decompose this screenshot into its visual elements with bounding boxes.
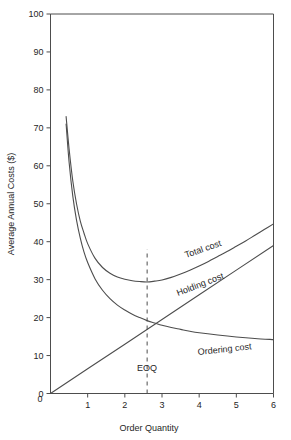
x-tick-label: 3 xyxy=(159,400,164,410)
y-tick-group: 0102030405060708090100 xyxy=(28,9,50,399)
x-tick-label: 1 xyxy=(85,400,90,410)
y-axis-title: Average Annual Costs ($) xyxy=(6,153,16,255)
x-tick-label: 4 xyxy=(197,400,202,410)
series-label-ordering-cost: Ordering cost xyxy=(197,341,252,357)
eoq-annotation-label: EOQ xyxy=(137,363,157,373)
x-tick-group: 0123456 xyxy=(37,394,276,410)
series-line-holding-cost xyxy=(51,246,274,394)
x-axis-title: Order Quantity xyxy=(119,423,179,433)
y-tick-label: 40 xyxy=(33,237,43,247)
y-tick-label: 20 xyxy=(33,313,43,323)
y-tick-label: 30 xyxy=(33,275,43,285)
series-line-ordering-cost xyxy=(66,124,273,340)
y-tick-label: 70 xyxy=(33,123,43,133)
y-tick-label: 90 xyxy=(33,47,43,57)
y-tick-label: 100 xyxy=(28,9,43,19)
x-tick-label: 0 xyxy=(37,394,42,404)
series-line-total-cost xyxy=(66,116,273,281)
axes-group xyxy=(51,14,274,394)
y-tick-label: 60 xyxy=(33,161,43,171)
x-tick-label: 5 xyxy=(234,400,239,410)
y-tick-label: 10 xyxy=(33,351,43,361)
eoq-cost-chart-svg: 0102030405060708090100 0123456 EOQ Total… xyxy=(0,0,291,440)
x-tick-label: 2 xyxy=(122,400,127,410)
y-tick-label: 80 xyxy=(33,85,43,95)
x-tick-label: 6 xyxy=(271,400,276,410)
chart-figure: 0102030405060708090100 0123456 EOQ Total… xyxy=(0,0,291,440)
y-tick-label: 50 xyxy=(33,199,43,209)
